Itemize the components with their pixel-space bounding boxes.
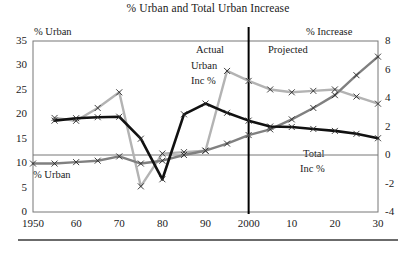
data-point-marker (353, 72, 359, 78)
series-line-urban-inc (55, 71, 378, 186)
plot-area (0, 0, 416, 255)
plot-frame (33, 41, 378, 212)
chart-container: % Urban and Total Urban Increase % Urban… (0, 0, 416, 255)
